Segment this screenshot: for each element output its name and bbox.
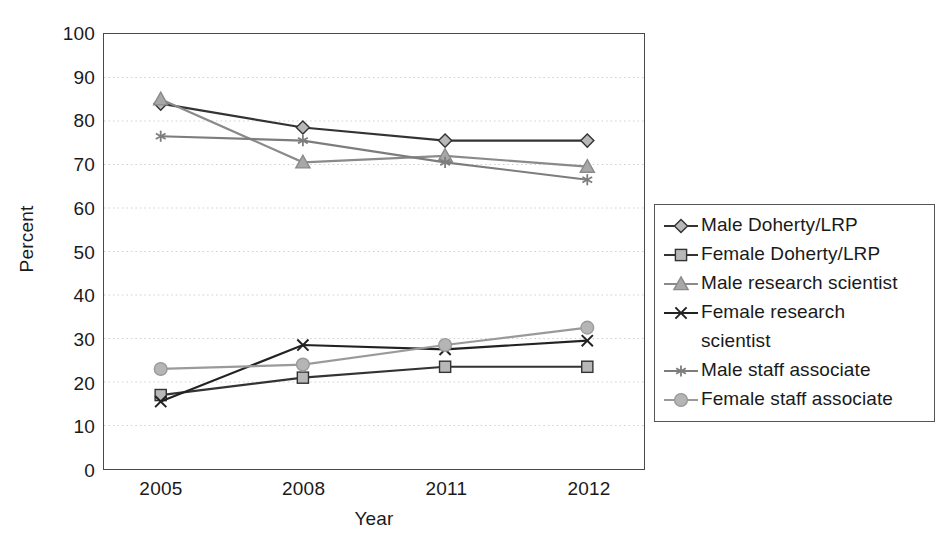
legend-label: Male staff associate <box>701 357 871 383</box>
chart-legend: Male Doherty/LRPFemale Doherty/LRPMale r… <box>654 204 935 422</box>
legend-item-continuation: scientist <box>661 328 926 355</box>
y-tick-label: 40 <box>73 285 95 307</box>
y-axis-title: Percent <box>16 179 38 299</box>
legend-item: Male Doherty/LRP <box>661 212 926 239</box>
legend-marker-diamond-icon <box>661 213 701 239</box>
y-tick-label: 30 <box>73 329 95 351</box>
legend-marker-asterisk-icon <box>661 358 701 384</box>
chart-figure: Percent 1009080706050403020100 200520082… <box>0 0 948 551</box>
y-tick-label: 50 <box>73 242 95 264</box>
x-axis-title: Year <box>103 508 645 530</box>
y-tick-label: 70 <box>73 154 95 176</box>
data-point-circle <box>581 321 594 334</box>
data-point-circle <box>297 358 310 371</box>
series-male-doherty-lrp <box>154 97 594 147</box>
series-male-research-scientist <box>154 92 595 172</box>
data-point-square <box>582 361 593 372</box>
x-tick-label: 2008 <box>282 478 325 500</box>
x-tick-label: 2005 <box>139 478 182 500</box>
data-series-layer <box>104 34 644 469</box>
data-point-square <box>440 361 451 372</box>
legend-item: Male research scientist <box>661 270 926 297</box>
legend-item: Male staff associate <box>661 357 926 384</box>
y-tick-label: 60 <box>73 198 95 220</box>
legend-marker-triangle-icon <box>661 271 701 297</box>
legend-label: Male Doherty/LRP <box>701 212 858 238</box>
legend-marker-circle-icon <box>661 387 701 413</box>
data-point-triangle <box>154 92 168 105</box>
y-tick-label: 80 <box>73 110 95 132</box>
legend-label-wrap: scientist <box>701 328 771 354</box>
series-line <box>161 104 588 141</box>
legend-label: Female Doherty/LRP <box>701 241 880 267</box>
legend-label: Male research scientist <box>701 270 898 296</box>
data-point-square <box>675 249 686 260</box>
y-tick-label: 0 <box>84 460 95 482</box>
data-point-circle <box>439 339 452 352</box>
plot-area: 1009080706050403020100 2005200820112012 <box>103 33 645 470</box>
legend-marker-x-icon <box>661 300 701 326</box>
data-point-square <box>297 372 308 383</box>
y-tick-label: 100 <box>63 23 95 45</box>
legend-item: Female research <box>661 299 926 326</box>
y-tick-label: 20 <box>73 373 95 395</box>
legend-label: Female research <box>701 299 845 325</box>
x-tick-label: 2012 <box>568 478 611 500</box>
legend-item: Female staff associate <box>661 386 926 413</box>
data-point-circle <box>675 394 688 407</box>
data-point-diamond <box>296 121 309 134</box>
legend-item: Female Doherty/LRP <box>661 241 926 268</box>
legend-marker-square-icon <box>661 242 701 268</box>
x-tick-label: 2011 <box>426 478 468 500</box>
data-point-circle <box>154 363 167 376</box>
series-line <box>161 367 588 395</box>
data-point-diamond <box>674 219 687 232</box>
legend-label: Female staff associate <box>701 386 893 412</box>
data-point-diamond <box>581 134 594 147</box>
y-tick-label: 90 <box>73 67 95 89</box>
y-tick-label: 10 <box>73 416 95 438</box>
data-point-diamond <box>439 134 452 147</box>
